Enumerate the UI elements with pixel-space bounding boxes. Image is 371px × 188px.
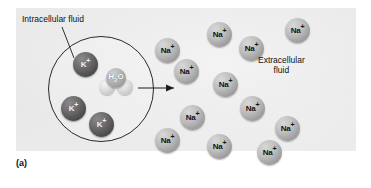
ion-sodium: Na+	[213, 72, 238, 97]
ion-sodium: Na+	[180, 105, 205, 130]
ion-sodium: Na+	[174, 59, 199, 84]
ion-sodium: Na+	[285, 18, 310, 43]
ion-sodium: Na+	[155, 128, 180, 153]
label-extracellular-fluid: Extracellular fluid	[258, 55, 305, 76]
ion-potassium: K+	[89, 112, 114, 137]
label-intracellular-fluid: Intracellular fluid	[22, 14, 84, 24]
ion-sodium: Na+	[207, 134, 232, 159]
ion-sodium: Na+	[240, 96, 265, 121]
ion-sodium: Na+	[257, 140, 282, 165]
ion-sodium: Na+	[155, 38, 180, 63]
ion-sodium: Na+	[207, 22, 232, 47]
figure-caption: (a)	[16, 158, 27, 168]
figure-panel-a: K+ K+ K+ H2O Na+ Na+ Na+ Na+ Na+ Na+ Na+…	[0, 0, 371, 188]
water-formula-label: H2O	[105, 72, 127, 81]
ion-potassium: K+	[73, 52, 98, 77]
ion-potassium: K+	[61, 96, 86, 121]
ion-sodium: Na+	[275, 116, 300, 141]
water-molecule: H2O	[99, 68, 133, 96]
